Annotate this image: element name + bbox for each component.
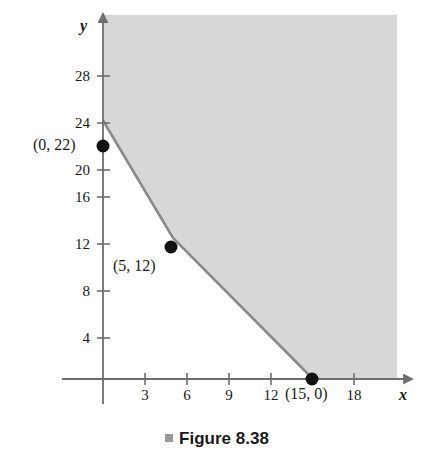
point-label-15-0: (15, 0) — [285, 386, 328, 402]
corner-point-5-12 — [165, 241, 178, 254]
x-tick-label-18: 18 — [339, 388, 369, 403]
x-tick-label-6: 6 — [172, 388, 202, 403]
x-tick-label-9: 9 — [214, 388, 244, 403]
y-tick-label-16: 16 — [56, 190, 90, 205]
caption-bullet-icon — [165, 434, 173, 442]
y-tick-label-28: 28 — [56, 69, 90, 84]
corner-point-15-0 — [306, 373, 319, 386]
y-tick-label-20: 20 — [56, 163, 90, 178]
corner-point-0-22 — [97, 140, 110, 153]
caption-text: Figure 8.38 — [179, 429, 269, 448]
point-label-0-22: (0, 22) — [33, 137, 76, 153]
figure-caption: Figure 8.38 — [0, 430, 434, 447]
y-tick-label-8: 8 — [56, 284, 90, 299]
point-label-5-12: (5, 12) — [113, 258, 156, 274]
x-axis-label: x — [399, 387, 407, 403]
y-tick-label-12: 12 — [56, 237, 90, 252]
x-tick-label-12: 12 — [256, 388, 286, 403]
figure-container: y x 28 24 20 16 12 8 4 3 6 9 12 18 (0, 2… — [0, 0, 434, 465]
x-tick-label-3: 3 — [130, 388, 160, 403]
plot-area — [0, 0, 434, 415]
y-tick-label-4: 4 — [56, 331, 90, 346]
y-axis-label: y — [80, 18, 87, 34]
y-tick-label-24: 24 — [56, 116, 90, 131]
